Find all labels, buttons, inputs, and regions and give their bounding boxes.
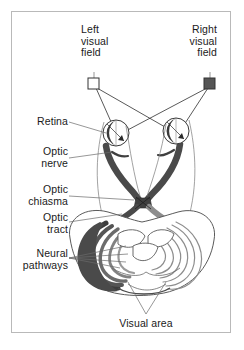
temple-curve-left <box>97 122 104 222</box>
visual-pathway-figure: Left visual field Right visual field Ret… <box>0 0 244 350</box>
label-right-visual-field: Right visual field <box>155 24 217 59</box>
filled-square-marker <box>204 78 215 89</box>
optic-nerve-right <box>146 144 180 201</box>
temple-curve-right <box>188 120 195 220</box>
right-eye <box>163 118 189 144</box>
label-retina: Retina <box>18 116 68 128</box>
label-left-visual-field: Left visual field <box>81 24 108 59</box>
label-neural-pathways: Neural pathways <box>4 248 68 271</box>
label-optic-chiasma: Optic chiasma <box>8 184 68 207</box>
optic-nerve-tract-group <box>106 144 180 226</box>
leader-retina <box>69 122 106 133</box>
nerve-stub-left <box>112 152 128 156</box>
eyes-group <box>103 118 189 146</box>
label-optic-tract: Optic tract <box>18 212 68 235</box>
left-eye <box>103 120 129 146</box>
open-square-marker <box>88 78 99 89</box>
label-optic-nerve: Optic nerve <box>18 146 68 169</box>
label-visual-area: Visual area <box>108 318 184 330</box>
leader-optic-chiasma <box>69 196 134 200</box>
